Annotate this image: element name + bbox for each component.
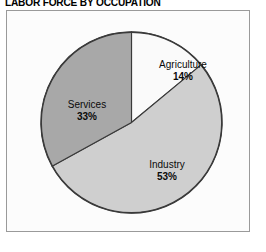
- page-title: LABOR FORCE BY OCCUPATION: [5, 0, 235, 10]
- pie-svg: [38, 29, 225, 216]
- pie-chart: [38, 29, 225, 216]
- chart-frame: Agriculture 14% Services 33% Industry 53…: [6, 10, 250, 232]
